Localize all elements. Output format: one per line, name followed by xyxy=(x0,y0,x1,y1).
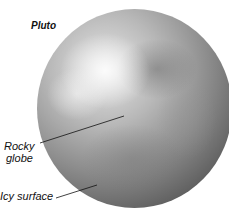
leader-line-icy-surface xyxy=(56,185,97,198)
leader-line-rocky-globe xyxy=(40,116,124,143)
leader-lines xyxy=(0,0,229,218)
pluto-diagram: Pluto Rocky globe Icy surface xyxy=(0,0,229,218)
